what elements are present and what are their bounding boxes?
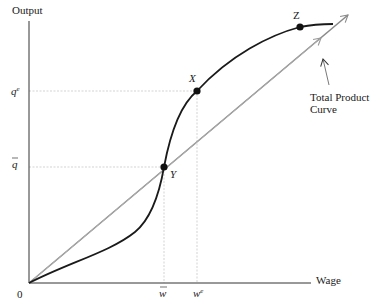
axes <box>29 21 311 283</box>
curve-label-arrow <box>323 59 329 85</box>
wbar-label: w <box>159 287 167 299</box>
ray-shallow <box>29 38 321 283</box>
diagram-canvas: Output Wage 0 qe q w we X Y Z Total Prod… <box>0 0 373 302</box>
x-axis-label: Wage <box>316 274 341 286</box>
curve-label-line2: Curve <box>310 103 337 115</box>
point-x-label: X <box>188 72 197 84</box>
point-z-label: Z <box>293 9 300 21</box>
qbar-label: q <box>12 158 18 170</box>
origin-label: 0 <box>17 288 23 300</box>
y-axis-label: Output <box>12 4 43 16</box>
point-y-label: Y <box>170 168 178 180</box>
curve-label-line1: Total Product <box>310 91 369 103</box>
point-y <box>160 163 167 170</box>
qe-label: qe <box>11 85 20 97</box>
we-label: we <box>193 287 203 299</box>
guide-lines <box>29 91 197 283</box>
point-z <box>296 23 303 30</box>
point-x <box>193 87 200 94</box>
